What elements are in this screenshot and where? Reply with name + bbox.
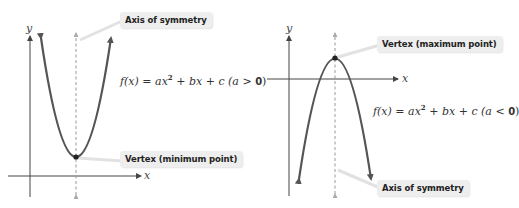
y-axis-label: y bbox=[26, 22, 32, 35]
y-axis-label-right: y bbox=[286, 22, 292, 35]
axis-of-symmetry-label: Axis of symmetry bbox=[120, 12, 212, 28]
formula-a-term: ax bbox=[155, 75, 168, 88]
formula-rest: + bx + c bbox=[176, 75, 224, 88]
formula-upward: f(x) = ax2 + bx + c (a > 0) bbox=[120, 73, 266, 88]
formula-cond-close: ) bbox=[515, 105, 519, 118]
x-axis-label-right: x bbox=[402, 72, 408, 85]
formula-rest: + bx + c bbox=[429, 105, 477, 118]
formula-cond-open: (a bbox=[228, 75, 239, 88]
right-panel: y x Vertex (maximum point) f(x) = ax2 + … bbox=[251, 0, 502, 208]
formula-cond-op: < bbox=[495, 105, 504, 118]
x-axis-label: x bbox=[144, 169, 150, 182]
formula-exponent: 2 bbox=[421, 103, 426, 112]
formula-exponent: 2 bbox=[168, 73, 173, 82]
formula-cond-open: (a bbox=[481, 105, 492, 118]
vertex-min-label: Vertex (minimum point) bbox=[120, 151, 242, 167]
formula-downward: f(x) = ax2 + bx + c (a < 0) bbox=[373, 103, 519, 118]
axis-of-symmetry-label-right: Axis of symmetry bbox=[377, 180, 469, 196]
formula-eq: = bbox=[142, 75, 151, 88]
formula-a-term: ax bbox=[408, 105, 421, 118]
formula-eq: = bbox=[395, 105, 404, 118]
vertex-max-label: Vertex (maximum point) bbox=[377, 36, 502, 52]
formula-lhs: f(x) bbox=[373, 105, 392, 118]
left-panel: y x Axis of symmetry f(x) = ax2 + bx + c… bbox=[0, 0, 251, 208]
formula-lhs: f(x) bbox=[120, 75, 139, 88]
